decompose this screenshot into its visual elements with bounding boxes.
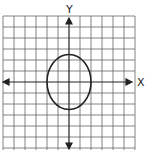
x-axis-right-arrow-icon xyxy=(126,79,132,85)
coordinate-plane xyxy=(0,0,146,155)
x-axis-left-arrow-icon xyxy=(3,79,9,85)
y-axis-up-arrow-icon xyxy=(66,18,72,24)
y-axis-label: Y xyxy=(66,4,73,15)
x-axis-label: X xyxy=(137,77,145,88)
